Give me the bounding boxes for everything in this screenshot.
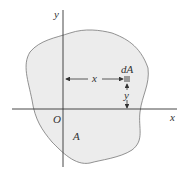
- area-diagram: y x O A dA x y: [0, 0, 187, 178]
- region-A: [26, 30, 148, 163]
- region-label: A: [72, 130, 80, 142]
- x-distance-label: x: [91, 72, 97, 84]
- y-axis-label: y: [53, 8, 59, 20]
- element-label: dA: [121, 63, 134, 75]
- diagram-canvas: y x O A dA x y: [0, 0, 187, 178]
- x-axis-label: x: [169, 111, 175, 123]
- element-dA: [124, 76, 130, 82]
- y-distance-label: y: [123, 89, 129, 101]
- origin-label: O: [53, 113, 61, 125]
